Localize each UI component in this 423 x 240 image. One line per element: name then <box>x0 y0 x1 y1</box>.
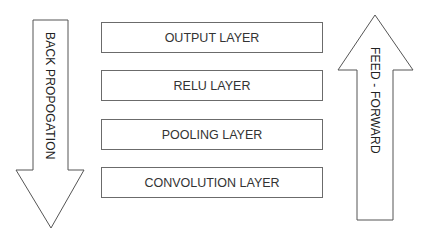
back-propagation-label: BACK PROPOGATION <box>43 32 57 160</box>
convolution-layer-box: CONVOLUTION LAYER <box>101 167 323 198</box>
output-layer-box: OUTPUT LAYER <box>101 22 323 53</box>
pooling-layer-box: POOLING LAYER <box>101 119 323 150</box>
relu-layer-box: RELU LAYER <box>101 70 323 101</box>
feed-forward-label: FEED - FORWARD <box>368 47 382 154</box>
